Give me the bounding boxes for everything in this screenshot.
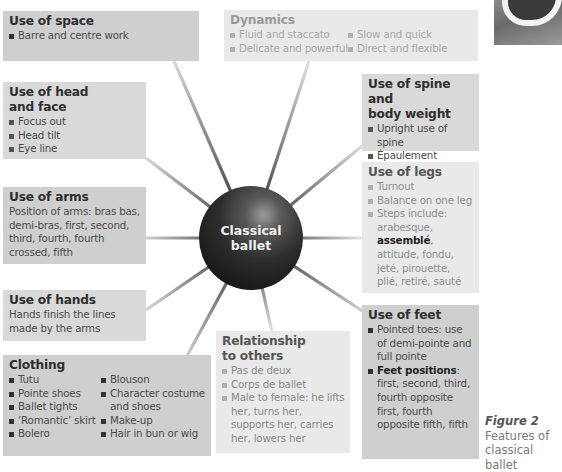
box-title: Use of arms	[9, 190, 141, 205]
shoe-shape	[502, 0, 562, 26]
box-relationship-to-others: Relationshipto others Pas de deux Corps …	[216, 331, 350, 453]
box-title: Relationshipto others	[222, 334, 345, 364]
box-text: Hands finish the lines made by the arms	[9, 308, 141, 335]
box-text: Position of arms: bras bas, demi-bras, f…	[9, 205, 141, 259]
list-item: Bolero	[9, 427, 101, 441]
list-item: Blouson	[101, 373, 205, 387]
list-item: Direct and flexible	[348, 42, 447, 56]
box-use-of-feet: Use of feet Pointed toes: use of demi-po…	[362, 305, 479, 459]
caption-line: classical ballet	[485, 443, 562, 472]
box-use-of-arms: Use of arms Position of arms: bras bas, …	[3, 187, 146, 264]
ballet-shoe-photo	[494, 0, 562, 45]
list-item: Ballet tights	[9, 400, 101, 414]
list-item: Eye line	[9, 142, 141, 156]
box-title: Use of spine andbody weight	[368, 77, 474, 122]
box-use-of-hands: Use of hands Hands finish the lines made…	[3, 290, 146, 341]
list-item: Pas de deux	[222, 364, 345, 378]
highlighted-term: Feet positions	[377, 364, 456, 376]
box-title: Clothing	[9, 358, 206, 373]
list-item: Character costume and shoes	[101, 387, 205, 414]
box-dynamics: Dynamics Fluid and staccato Delicate and…	[224, 10, 478, 61]
figure-caption: Figure 2 Features of classical ballet	[485, 414, 562, 472]
box-title: Use of hands	[9, 293, 141, 308]
list-item: Pointe shoes	[9, 387, 101, 401]
list-item: Turnout	[368, 180, 474, 194]
center-node-classical-ballet: Classicalballet	[199, 186, 303, 290]
list-item: ‘Romantic’ skirt	[9, 414, 101, 428]
list-item: Corps de ballet	[222, 378, 345, 392]
box-title: Dynamics	[230, 13, 473, 28]
list-item: Slow and quick	[348, 28, 447, 42]
box-title: Use of feet	[368, 308, 474, 323]
list-item: Feet positions: first, second, third, fo…	[368, 364, 474, 432]
highlighted-term: assemblé	[377, 234, 430, 246]
list-item: Make-up	[101, 414, 205, 428]
list-item-steps: Steps include: arabesque, assemblé, atti…	[368, 207, 474, 289]
list-item: Head tilt	[9, 129, 141, 143]
list-item: Delicate and powerful	[230, 42, 348, 56]
box-use-of-space: Use of space Barre and centre work	[3, 11, 199, 61]
list-item: Pointed toes: use of demi-pointe and ful…	[368, 323, 474, 364]
list-item: Male to female: he lifts her, turns her,…	[222, 391, 345, 445]
list-item: Barre and centre work	[9, 29, 194, 43]
list-item: Hair in bun or wig	[101, 427, 205, 441]
box-use-of-head-and-face: Use of headand face Focus out Head tilt …	[3, 82, 146, 159]
box-use-of-legs: Use of legs Turnout Balance on one leg S…	[362, 162, 479, 293]
list-item: Fluid and staccato	[230, 28, 348, 42]
caption-line: Features of	[485, 429, 562, 444]
box-title: Use of space	[9, 14, 194, 29]
box-use-of-spine: Use of spine andbody weight Upright use …	[362, 74, 479, 151]
box-title: Use of headand face	[9, 85, 141, 115]
list-item: Balance on one leg	[368, 194, 474, 208]
figure-number: Figure 2	[485, 414, 562, 429]
list-item: Épaulement	[368, 149, 474, 163]
list-item: Focus out	[9, 115, 141, 129]
list-item: Tutu	[9, 373, 101, 387]
list-item: Upright use of spine	[368, 122, 474, 149]
box-clothing: Clothing Tutu Pointe shoes Ballet tights…	[3, 355, 211, 456]
box-title: Use of legs	[368, 165, 474, 180]
